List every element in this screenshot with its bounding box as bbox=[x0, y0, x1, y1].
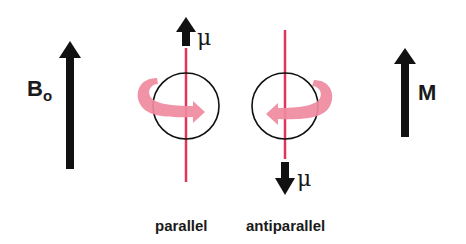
antiparallel-spin bbox=[252, 30, 332, 195]
moment-label-parallel: μ bbox=[197, 25, 211, 50]
caption-parallel: parallel bbox=[155, 217, 208, 234]
moment-arrow-down bbox=[275, 162, 295, 195]
field-label: Bo bbox=[27, 76, 52, 102]
rotation-arrow-parallel bbox=[138, 78, 205, 123]
field-label-subscript: o bbox=[43, 87, 52, 104]
moment-label-antiparallel: μ bbox=[297, 166, 311, 191]
magnetization-label: M bbox=[418, 80, 436, 106]
caption-antiparallel: antiparallel bbox=[246, 217, 325, 234]
field-arrow-b0 bbox=[59, 41, 81, 169]
magnetization-arrow bbox=[394, 48, 416, 137]
field-label-main: B bbox=[27, 76, 43, 101]
moment-arrow-up bbox=[176, 17, 196, 46]
rotation-arrow-antiparallel bbox=[266, 80, 332, 125]
diagram-canvas bbox=[0, 0, 466, 244]
